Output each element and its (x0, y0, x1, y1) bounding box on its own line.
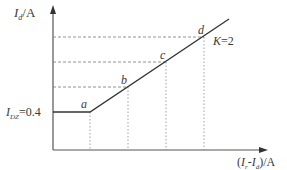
x-axis-label: (Ir-Id)/A (237, 155, 276, 170)
point-b-label: b (121, 73, 127, 87)
point-c-label: c (160, 48, 166, 62)
x-axis-arrow-icon (259, 147, 268, 153)
slope-label: K=2 (212, 34, 234, 48)
differential-characteristic-diagram: Id/A IDZ=0.4 a b c d K=2 (Ir-Id)/A (0, 0, 287, 170)
y-axis-label: Id/A (13, 5, 36, 22)
dotted-guides (90, 37, 204, 150)
point-a-label: a (81, 97, 87, 111)
point-d-label: d (198, 23, 205, 37)
y-axis-arrow-icon (50, 5, 56, 14)
threshold-label: IDZ=0.4 (5, 105, 41, 121)
dashed-guides (53, 37, 204, 87)
